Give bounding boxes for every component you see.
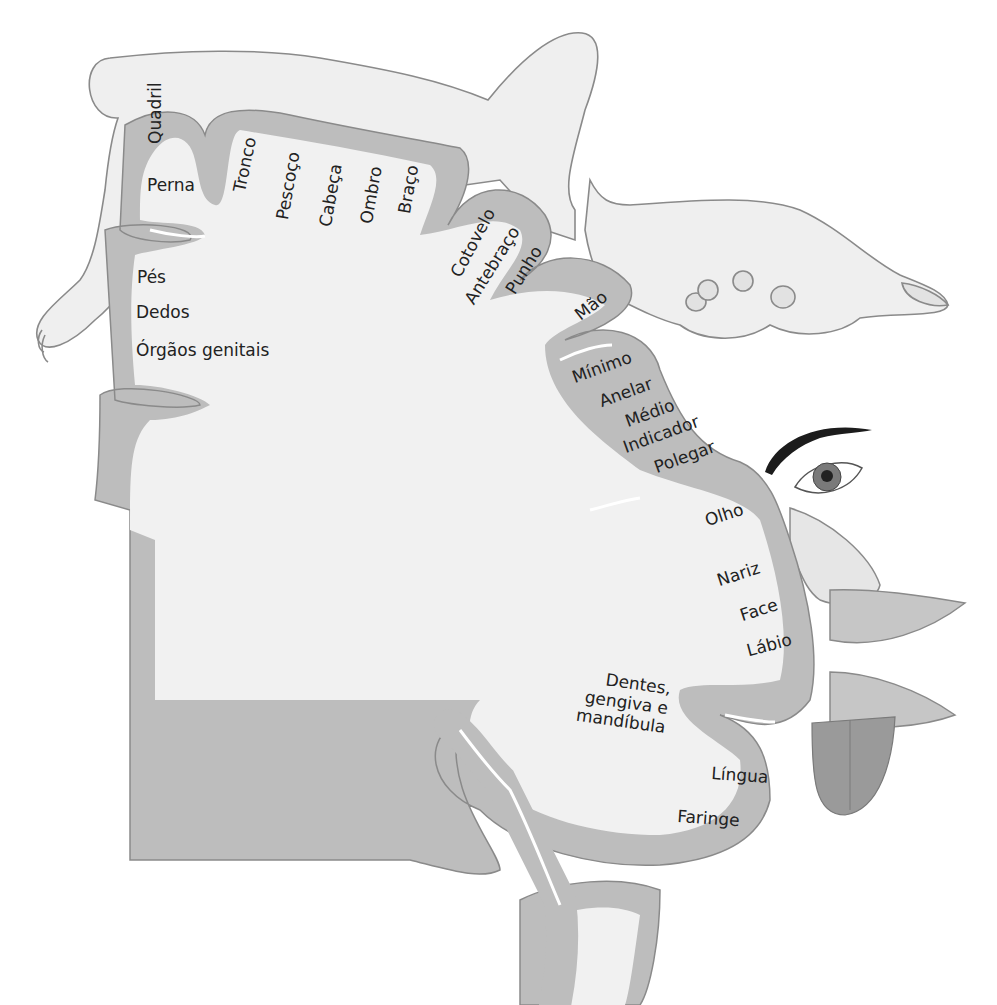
label-pes: Pés xyxy=(137,269,166,286)
upper-lip xyxy=(830,590,965,643)
homunculus-diagram: Quadril Perna Tronco Pescoço Cabeça Ombr… xyxy=(0,0,997,1005)
diagram-artwork xyxy=(0,0,997,1005)
label-dentes-gengiva-mandibula: Dentes, gengiva e mandíbula xyxy=(575,667,672,738)
label-dedos: Dedos xyxy=(136,304,190,321)
fingernail xyxy=(698,280,718,300)
label-orgaos-genitais: Órgãos genitais xyxy=(136,342,269,359)
hand-figure xyxy=(585,180,948,338)
label-perna: Perna xyxy=(147,177,195,194)
label-quadril: Quadril xyxy=(147,82,164,144)
pupil xyxy=(821,470,833,482)
label-faringe: Faringe xyxy=(677,808,740,829)
tongue xyxy=(812,717,895,815)
fingernail xyxy=(771,286,795,308)
label-lingua: Língua xyxy=(711,765,769,786)
fingernail xyxy=(733,271,753,291)
hand-shape xyxy=(585,180,948,338)
